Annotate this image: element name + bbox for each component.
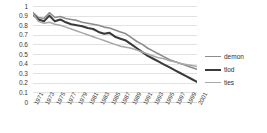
x-axis: 1971197319751977197919811983198519871989… bbox=[33, 103, 197, 133]
y-axis-tick-label: 0.6 bbox=[19, 41, 28, 48]
y-axis-tick-label: 0.9 bbox=[19, 12, 28, 19]
legend-swatch-icon bbox=[205, 56, 221, 57]
x-axis-tick-label: 2001 bbox=[197, 91, 209, 106]
legend-label: tlod bbox=[224, 66, 234, 74]
legend-label: ties bbox=[224, 79, 234, 87]
legend-item: demon bbox=[205, 50, 265, 63]
legend-item: ties bbox=[205, 76, 265, 89]
y-axis-tick-label: 0.2 bbox=[19, 79, 28, 86]
legend-label: demon bbox=[224, 53, 244, 61]
legend-item: tlod bbox=[205, 63, 265, 76]
plot-area bbox=[33, 6, 197, 102]
y-axis: 00.10.20.30.40.50.60.70.80.91 bbox=[0, 0, 31, 108]
y-axis-tick-label: 0.8 bbox=[19, 22, 28, 29]
series-line bbox=[33, 14, 197, 67]
y-axis-tick-label: 0.3 bbox=[19, 70, 28, 77]
y-axis-tick-label: 1 bbox=[24, 3, 28, 10]
y-axis-tick-label: 0 bbox=[24, 99, 28, 106]
y-axis-tick-label: 0.5 bbox=[19, 51, 28, 58]
legend-swatch-icon bbox=[205, 82, 221, 83]
line-chart: 00.10.20.30.40.50.60.70.80.91 1971197319… bbox=[0, 0, 267, 133]
y-axis-tick-label: 0.1 bbox=[19, 89, 28, 96]
legend-swatch-icon bbox=[205, 69, 221, 71]
series-layer bbox=[33, 6, 197, 102]
legend: demontlodties bbox=[205, 50, 265, 89]
y-axis-tick-label: 0.4 bbox=[19, 60, 28, 67]
y-axis-tick-label: 0.7 bbox=[19, 31, 28, 38]
